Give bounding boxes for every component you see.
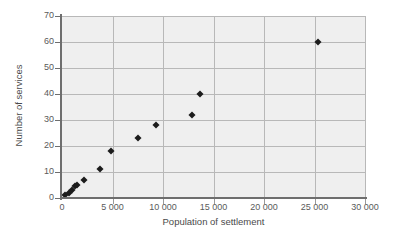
gridline-vertical	[113, 16, 114, 198]
plot-area	[62, 16, 365, 198]
data-point-marker	[108, 148, 115, 155]
x-axis-title: Population of settlement	[62, 216, 365, 227]
y-axis-tick-label: 10	[32, 167, 54, 176]
data-point-marker	[197, 90, 204, 97]
y-axis-tick-label: 0	[32, 193, 54, 202]
y-axis-tick-label: 60	[32, 37, 54, 46]
y-axis-tick-label: 40	[32, 89, 54, 98]
x-axis-tick-label: 0	[59, 202, 64, 212]
x-axis-tick-label: 30 000	[351, 202, 379, 212]
x-axis-tick-label: 10 000	[149, 202, 177, 212]
x-axis-tick-label: 15 000	[200, 202, 228, 212]
scatter-chart-figure: 010203040506070 05 00010 00015 00020 000…	[0, 0, 401, 237]
data-point-marker	[81, 176, 88, 183]
gridline-vertical	[163, 16, 164, 198]
gridline-vertical	[365, 16, 366, 198]
y-axis-tick	[55, 16, 61, 17]
y-axis-tick	[55, 68, 61, 69]
y-axis-tick-label: 30	[32, 115, 54, 124]
y-axis-tick	[55, 146, 61, 147]
data-point-marker	[189, 111, 196, 118]
data-point-marker	[134, 135, 141, 142]
y-axis-title: Number of services	[13, 36, 24, 176]
y-axis-tick	[55, 120, 61, 121]
y-axis-tick	[55, 172, 61, 173]
x-axis-tick-label: 20 000	[250, 202, 278, 212]
y-axis-tick-label: 20	[32, 141, 54, 150]
y-axis-tick-label: 70	[32, 11, 54, 20]
gridline-vertical	[214, 16, 215, 198]
x-axis-tick-label: 25 000	[301, 202, 329, 212]
y-axis-tick	[55, 94, 61, 95]
y-axis-tick	[55, 42, 61, 43]
gridline-vertical	[264, 16, 265, 198]
data-point-marker	[152, 122, 159, 129]
x-axis-tick-label: 5 000	[101, 202, 124, 212]
y-axis-tick-label: 50	[32, 63, 54, 72]
y-axis-tick	[55, 198, 61, 199]
